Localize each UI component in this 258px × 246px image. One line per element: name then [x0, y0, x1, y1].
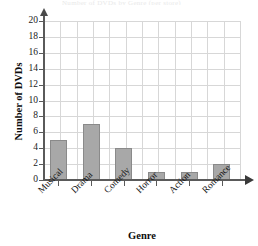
- y-axis-tick: [39, 69, 44, 70]
- gridline-horizontal: [44, 53, 240, 54]
- gridline-horizontal: [44, 37, 240, 38]
- y-axis-tick-label: 0: [14, 175, 38, 185]
- cropped-chart-title-remnant: Number of DVDs by Genre (per store): [62, 0, 258, 5]
- y-axis-tick-label: 20: [14, 16, 38, 26]
- y-axis-tick: [39, 21, 44, 22]
- x-axis-arrow-icon: [245, 175, 254, 185]
- y-axis-tick: [39, 116, 44, 117]
- gridline-horizontal: [44, 132, 240, 133]
- gridline-horizontal: [44, 21, 240, 22]
- gridline-vertical: [240, 21, 241, 180]
- y-axis-arrow-icon: [40, 8, 48, 16]
- x-axis-tick: [124, 181, 125, 186]
- gridline-horizontal: [44, 164, 240, 165]
- x-axis-tick: [91, 181, 92, 186]
- bar-chart-screenshot: Number of DVDs by Genre (per store) 0246…: [0, 0, 258, 246]
- y-axis-tick: [39, 148, 44, 149]
- y-axis-line: [43, 14, 45, 181]
- x-axis-tick: [156, 181, 157, 186]
- y-axis-tick: [39, 37, 44, 38]
- gridline-horizontal: [44, 148, 240, 149]
- x-axis-tick: [189, 181, 190, 186]
- gridline-horizontal: [44, 101, 240, 102]
- y-axis-tick: [39, 53, 44, 54]
- gridline-horizontal: [44, 85, 240, 86]
- gridline-horizontal: [44, 116, 240, 117]
- gridline-horizontal: [44, 69, 240, 70]
- x-axis-title: Genre: [44, 230, 240, 241]
- plot-area: [44, 21, 240, 180]
- y-axis-tick: [39, 85, 44, 86]
- y-axis-tick: [39, 132, 44, 133]
- y-axis-tick-label: 18: [14, 32, 38, 42]
- y-axis-tick: [39, 164, 44, 165]
- y-axis-tick-label: 2: [14, 159, 38, 169]
- x-axis-tick: [58, 181, 59, 186]
- y-axis-title: Number of DVDs: [13, 47, 24, 157]
- y-axis-tick: [39, 101, 44, 102]
- x-axis-tick: [222, 181, 223, 186]
